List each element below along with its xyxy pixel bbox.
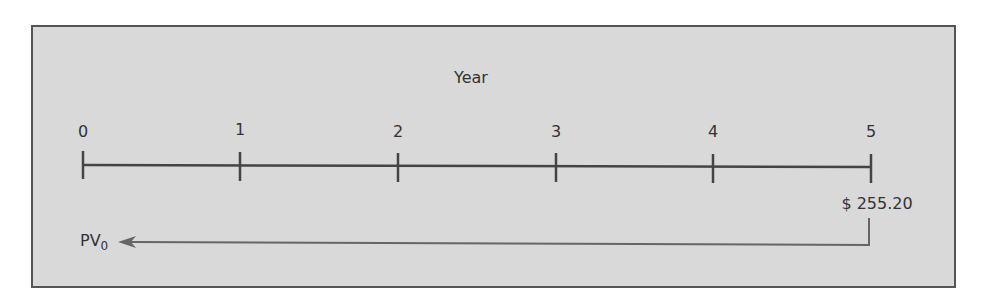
discount-arrow-line (130, 218, 869, 245)
timeline-axis (83, 165, 871, 167)
present-value-label: PV0 (80, 231, 108, 253)
timeline-graphic (0, 0, 983, 304)
future-value: $ 255.20 (841, 194, 912, 213)
